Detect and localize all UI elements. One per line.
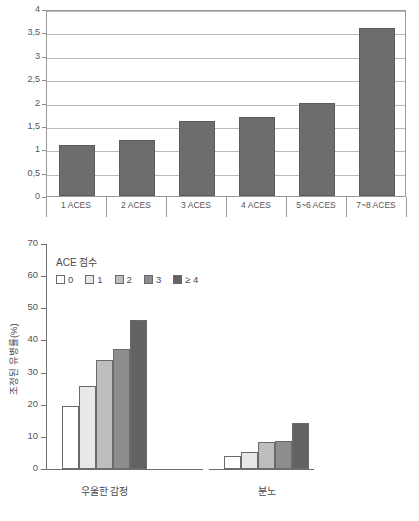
y-tick-label: 2 xyxy=(0,99,40,108)
legend-bottom: ACE 점수 0123≥ 4 xyxy=(56,254,246,285)
x-axis-separator xyxy=(166,197,167,217)
x-axis-separator xyxy=(406,197,407,217)
y-tick-label: 10 xyxy=(0,431,38,441)
y-tick-label: 3,5 xyxy=(0,28,40,37)
bar xyxy=(292,423,309,469)
bar xyxy=(299,103,335,197)
bar xyxy=(239,117,275,196)
bar xyxy=(179,121,215,196)
x-tick-label: 3 ACES xyxy=(166,200,226,210)
x-tick-label: 1 ACES xyxy=(46,200,106,210)
legend-item: 1 xyxy=(85,274,102,285)
x-axis-line-group1 xyxy=(46,469,203,470)
legend-label: 0 xyxy=(68,274,73,285)
y-tick-label: 1 xyxy=(0,145,40,154)
y-axis-title-bottom: 조정된 유병률(%) xyxy=(6,294,20,424)
ace-prevalence-chart: 010203040506070 조정된 유병률(%) ACE 점수 0123≥ … xyxy=(0,234,419,521)
x-axis-separator xyxy=(46,197,47,217)
bar-series-top xyxy=(47,11,405,196)
legend-item: ≥ 4 xyxy=(173,274,198,285)
y-tick-label: 1,5 xyxy=(0,122,40,131)
legend-label: ≥ 4 xyxy=(185,274,198,285)
x-tick-label: 분노 xyxy=(217,483,317,498)
bar xyxy=(241,452,258,469)
x-tick-label: 4 ACES xyxy=(226,200,286,210)
bar xyxy=(79,386,96,469)
legend-swatch xyxy=(56,275,65,284)
y-tick-label: 0 xyxy=(0,463,38,473)
legend-item: 0 xyxy=(56,274,73,285)
y-tick-label: 70 xyxy=(0,238,38,248)
bar xyxy=(359,28,395,196)
x-axis-separator xyxy=(346,197,347,217)
x-axis-separator xyxy=(106,197,107,217)
plot-area-top xyxy=(46,10,406,197)
legend-swatch xyxy=(115,275,124,284)
legend-item: 3 xyxy=(144,274,161,285)
x-axis-line-group2 xyxy=(209,469,314,470)
x-tick-label: 7~8 ACES xyxy=(346,200,406,210)
x-axis-separator xyxy=(226,197,227,217)
bar xyxy=(113,349,130,469)
aces-odds-chart: 00,511,522,533,54 1 ACES2 ACES3 ACES4 AC… xyxy=(0,0,419,228)
x-tick-label: 2 ACES xyxy=(106,200,166,210)
legend-swatch xyxy=(173,275,182,284)
y-tick-label: 60 xyxy=(0,270,38,280)
bar xyxy=(258,442,275,469)
y-tick-label: 4 xyxy=(0,5,40,14)
bar xyxy=(119,140,155,196)
legend-item: 2 xyxy=(115,274,132,285)
legend-title: ACE 점수 xyxy=(56,254,246,269)
legend-swatch xyxy=(144,275,153,284)
bar xyxy=(275,441,292,469)
y-tick-label: 3 xyxy=(0,52,40,61)
y-tick-label: 0,5 xyxy=(0,169,40,178)
x-tick-label: 우울한 감정 xyxy=(55,483,155,498)
x-axis-separator xyxy=(286,197,287,217)
bar xyxy=(96,360,113,469)
legend-label: 3 xyxy=(156,274,161,285)
x-tick-label: 5~6 ACES xyxy=(286,200,346,210)
legend-label: 2 xyxy=(127,274,132,285)
legend-swatch xyxy=(85,275,94,284)
y-tick-label: 0 xyxy=(0,192,40,201)
bar xyxy=(59,145,95,196)
legend-label: 1 xyxy=(97,274,102,285)
bar xyxy=(62,406,79,469)
legend-items: 0123≥ 4 xyxy=(56,274,246,285)
y-tick-label: 2,5 xyxy=(0,75,40,84)
bar xyxy=(224,456,241,469)
bar xyxy=(130,320,147,469)
